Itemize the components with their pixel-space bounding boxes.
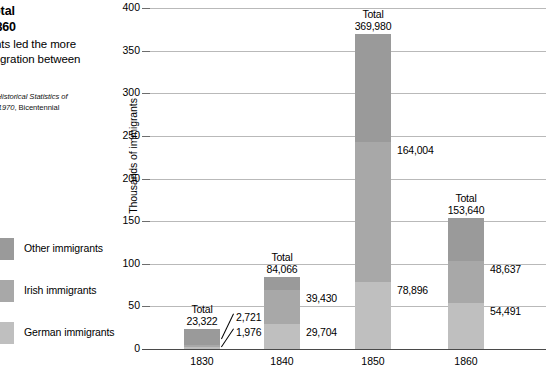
y-axis-tick-label: 300: [96, 87, 140, 97]
x-axis-tick-label-1840: 1840: [252, 355, 312, 367]
bar-segment-irish-1850[interactable]: [355, 142, 391, 282]
gridline: [150, 221, 546, 222]
y-axis-tick-label: 0: [96, 343, 140, 353]
source-text-2: , Bicentennial: [14, 103, 59, 112]
bar-1840[interactable]: [264, 277, 300, 349]
y-axis-tick-label: 250: [96, 130, 140, 140]
bar-segment-german-1840[interactable]: [264, 324, 300, 349]
bar-segment-other-1850[interactable]: [355, 34, 391, 142]
total-value-1860: 153,640: [421, 204, 511, 216]
bar-segment-german-1850[interactable]: [355, 282, 391, 349]
y-axis-tick-label: 150: [96, 215, 140, 225]
legend-label-german: German immigrants: [24, 326, 115, 338]
segment-label-german-1850: 78,896: [397, 284, 428, 296]
gridline: [150, 179, 546, 180]
legend-label-other: Other immigrants: [24, 242, 103, 254]
bar-segment-irish-1830[interactable]: [184, 345, 220, 347]
x-axis-line: [150, 349, 546, 350]
chart-area: Thousands of immigrants 0501001502002503…: [125, 0, 546, 364]
total-value-1850: 369,980: [328, 20, 418, 32]
total-value-1830: 23,322: [157, 315, 247, 327]
x-axis-tick-label-1860: 1860: [436, 355, 496, 367]
leader-line-german-1830: [221, 328, 234, 347]
source-italic-2: Times to 1970: [0, 103, 14, 112]
y-axis-tick-label: 200: [96, 173, 140, 183]
y-axis-title: Thousands of immigrants: [127, 26, 139, 286]
legend-swatch-other: [0, 238, 14, 260]
x-axis-tick-label-1850: 1850: [343, 355, 403, 367]
segment-label-german-1830: 1,976: [236, 326, 261, 338]
legend-swatch-irish: [0, 280, 14, 302]
legend-swatch-german: [0, 322, 14, 344]
segment-label-german-1860: 54,491: [490, 305, 521, 317]
bar-segment-german-1860[interactable]: [448, 303, 484, 349]
total-value-1840: 84,066: [237, 263, 327, 275]
bar-segment-other-1840[interactable]: [264, 277, 300, 290]
bar-segment-other-1830[interactable]: [184, 329, 220, 345]
bar-segment-german-1830[interactable]: [184, 347, 220, 349]
y-axis-tick-label: 350: [96, 45, 140, 55]
total-word-1850: Total: [328, 8, 418, 20]
gridline: [150, 93, 546, 94]
segment-label-irish-1840: 39,430: [306, 292, 337, 304]
y-axis-tick-label: 100: [96, 258, 140, 268]
legend-label-irish: Irish immigrants: [24, 284, 97, 296]
y-axis-tick-label: 400: [96, 2, 140, 12]
x-axis-tick-label-1830: 1830: [172, 355, 232, 367]
segment-label-irish-1860: 48,637: [490, 263, 521, 275]
bar-segment-other-1860[interactable]: [448, 218, 484, 261]
source-italic-1: Historical Statistics of: [0, 92, 68, 101]
segment-label-irish-1850: 164,004: [397, 144, 434, 156]
bar-1850[interactable]: [355, 34, 391, 349]
total-word-1860: Total: [421, 192, 511, 204]
bar-1830[interactable]: [184, 329, 220, 349]
bar-segment-irish-1860[interactable]: [448, 261, 484, 302]
segment-label-german-1840: 29,704: [306, 326, 337, 338]
y-axis-tick-label: 50: [96, 300, 140, 310]
gridline: [150, 51, 546, 52]
total-word-1840: Total: [237, 251, 327, 263]
segment-label-irish-1830: 2,721: [236, 311, 261, 323]
gridline: [150, 136, 546, 137]
bar-segment-irish-1840[interactable]: [264, 290, 300, 324]
gridline: [150, 264, 546, 265]
bar-1860[interactable]: [448, 218, 484, 349]
